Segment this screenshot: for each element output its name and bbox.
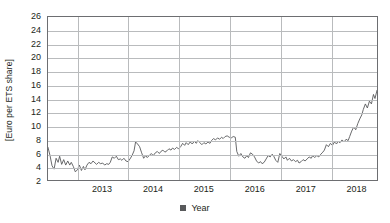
horizontal-gridline: [48, 72, 377, 73]
legend-swatch-year: [180, 205, 186, 211]
x-tick-label: 2017: [296, 184, 316, 194]
horizontal-gridline: [48, 113, 377, 114]
y-tick-label: 2: [36, 176, 41, 186]
vertical-gridline: [230, 17, 231, 180]
horizontal-gridline: [48, 127, 377, 128]
horizontal-gridline: [48, 86, 377, 87]
y-axis-tick-labels: 2468101214161820222426: [18, 0, 44, 223]
y-tick-label: 10: [31, 121, 41, 131]
vertical-gridline: [281, 17, 282, 180]
horizontal-gridline: [48, 141, 377, 142]
chart-figure: [Euro per ETS share] 2468101214161820222…: [0, 0, 390, 223]
vertical-gridline: [179, 17, 180, 180]
vertical-gridline: [332, 17, 333, 180]
y-tick-label: 6: [36, 149, 41, 159]
x-axis-tick-labels: 201320142015201620172018: [47, 184, 378, 198]
y-axis-title-text: [Euro per ETS share]: [4, 59, 14, 141]
horizontal-gridline: [48, 168, 377, 169]
y-tick-label: 12: [31, 107, 41, 117]
x-tick-label: 2014: [143, 184, 163, 194]
y-tick-label: 18: [31, 66, 41, 76]
horizontal-gridline: [48, 45, 377, 46]
x-tick-label: 2013: [92, 184, 112, 194]
y-tick-label: 24: [31, 25, 41, 35]
y-tick-label: 16: [31, 80, 41, 90]
y-tick-label: 8: [36, 135, 41, 145]
legend-label-year: Year: [191, 203, 209, 213]
plot-area: [47, 16, 378, 181]
y-tick-label: 22: [31, 39, 41, 49]
y-tick-label: 26: [31, 11, 41, 21]
y-tick-label: 20: [31, 52, 41, 62]
horizontal-gridline: [48, 31, 377, 32]
y-tick-label: 14: [31, 94, 41, 104]
x-tick-label: 2018: [347, 184, 367, 194]
vertical-gridline: [128, 17, 129, 180]
horizontal-gridline: [48, 155, 377, 156]
horizontal-gridline: [48, 58, 377, 59]
horizontal-gridline: [48, 100, 377, 101]
x-tick-label: 2015: [194, 184, 214, 194]
chart-legend: Year: [0, 203, 390, 213]
y-tick-label: 4: [36, 162, 41, 172]
y-axis-title: [Euro per ETS share]: [0, 0, 18, 200]
x-tick-label: 2016: [245, 184, 265, 194]
vertical-gridline: [78, 17, 79, 180]
